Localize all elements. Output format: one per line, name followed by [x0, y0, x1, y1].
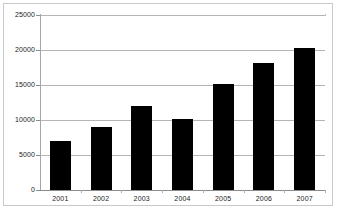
x-tick-mark-2 — [121, 190, 122, 193]
y-tick-label-20000: 20000 — [1, 46, 35, 54]
bar-2001[interactable] — [50, 141, 71, 190]
bar-2003[interactable] — [131, 106, 152, 190]
plot-right-edge — [325, 14, 326, 16]
bar-2002[interactable] — [91, 127, 112, 190]
x-tick-mark-6 — [284, 190, 285, 193]
y-tick-label-5000: 5000 — [1, 151, 35, 159]
x-tick-mark-1 — [81, 190, 82, 193]
x-tick-label-2005: 2005 — [203, 194, 243, 203]
x-tick-label-2002: 2002 — [81, 194, 121, 203]
y-tick-label-25000: 25000 — [1, 11, 35, 19]
x-tick-label-2007: 2007 — [285, 194, 325, 203]
x-tick-mark-4 — [203, 190, 204, 193]
x-tick-label-2004: 2004 — [163, 194, 203, 203]
bar-2007[interactable] — [294, 48, 315, 190]
x-axis-line — [40, 190, 326, 191]
bars-layer — [40, 15, 325, 190]
bar-2006[interactable] — [253, 63, 274, 190]
bar-2005[interactable] — [213, 84, 234, 190]
x-tick-mark-7 — [325, 190, 326, 193]
y-axis-tick-labels: 0500010000150002000025000 — [0, 0, 35, 211]
y-tick-label-15000: 15000 — [1, 81, 35, 89]
x-tick-label-2003: 2003 — [122, 194, 162, 203]
x-tick-label-2001: 2001 — [40, 194, 80, 203]
x-tick-mark-5 — [244, 190, 245, 193]
y-tick-label-0: 0 — [1, 186, 35, 194]
y-tick-label-10000: 10000 — [1, 116, 35, 124]
x-tick-label-2006: 2006 — [244, 194, 284, 203]
y-tick-mark-0 — [36, 190, 40, 191]
bar-2004[interactable] — [172, 119, 193, 190]
bar-chart: 0500010000150002000025000 20012002200320… — [0, 0, 339, 211]
x-tick-mark-3 — [162, 190, 163, 193]
